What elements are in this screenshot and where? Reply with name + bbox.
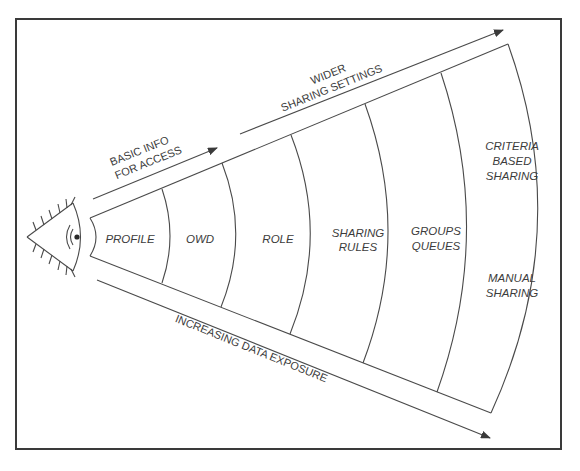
fan-diagram: BASIC INFO FOR ACCESS WIDER SHARING SETT… — [0, 0, 580, 471]
wider-sharing-label: WIDER SHARING SETTINGS — [274, 49, 384, 114]
svg-text:MANUAL: MANUAL — [488, 272, 536, 284]
svg-text:QUEUES: QUEUES — [412, 240, 461, 252]
segment-role: ROLE — [262, 233, 294, 245]
wider-sharing-arrow — [240, 30, 503, 134]
eye-icon — [27, 197, 81, 277]
svg-text:GROUPS: GROUPS — [411, 225, 461, 237]
svg-text:SHARING: SHARING — [486, 170, 538, 182]
svg-text:RULES: RULES — [339, 241, 378, 253]
svg-text:INCREASING DATA EXPOSURE: INCREASING DATA EXPOSURE — [174, 312, 329, 384]
svg-text:BASED: BASED — [493, 155, 532, 167]
svg-text:SHARING: SHARING — [332, 227, 384, 239]
segment-criteria-based-sharing: CRITERIA BASED SHARING — [485, 140, 539, 182]
segment-profile: PROFILE — [105, 233, 155, 245]
segment-owd: OWD — [186, 233, 214, 245]
svg-text:CRITERIA: CRITERIA — [485, 140, 539, 152]
svg-text:SHARING: SHARING — [486, 287, 538, 299]
data-exposure-label: INCREASING DATA EXPOSURE — [174, 312, 329, 384]
segment-manual-sharing: MANUAL SHARING — [486, 272, 538, 299]
segment-groups-queues: GROUPS QUEUES — [411, 225, 461, 252]
segment-sharing-rules: SHARING RULES — [332, 227, 384, 253]
basic-info-label: BASIC INFO FOR ACCESS — [108, 130, 183, 181]
